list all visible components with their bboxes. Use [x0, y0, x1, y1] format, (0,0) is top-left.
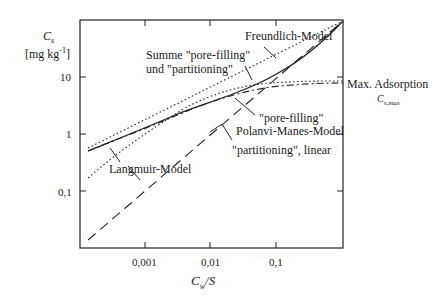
y-tick-10: 10 — [60, 71, 71, 83]
summe-label-line1: Summe "pore-filling" — [146, 48, 250, 62]
y-axis-unit: [mg kg-1] — [25, 44, 70, 61]
x-axis-rest: /S — [205, 273, 215, 288]
y-axis-unit-text: [mg kg — [25, 47, 59, 61]
x-axis-label: Cw/S — [191, 274, 215, 294]
cmax-sub: s,max — [384, 99, 400, 107]
partitioning-label: "partitioning", linear — [232, 143, 331, 157]
cmax-label: Cs,max — [377, 92, 400, 110]
cmax-c: C — [377, 93, 384, 104]
max-adsorption-label: Max. Adsorption — [347, 77, 428, 91]
x-tick-0001: 0,001 — [132, 256, 157, 268]
pore-filling-label-line2: Polanvi-Manes-Model — [236, 124, 344, 138]
y-tick-1: 1 — [66, 128, 72, 140]
x-axis-c: C — [191, 273, 200, 288]
x-tick-001: 0,01 — [201, 256, 220, 268]
y-tick-01: 0,1 — [58, 186, 72, 198]
pore-filling-label-line1: "pore-filling" — [259, 111, 323, 125]
y-axis-unit-end: ] — [66, 47, 70, 61]
x-tick-01: 0,1 — [269, 256, 283, 268]
summe-label-line2: und "partitioning" — [146, 62, 233, 76]
freundlich-label: Freundlich-Model — [245, 29, 332, 43]
langmuir-label: Langmuir-Model — [109, 162, 191, 176]
y-axis-symbol: C — [43, 29, 51, 43]
y-axis-unit-exp: -1 — [59, 46, 66, 55]
